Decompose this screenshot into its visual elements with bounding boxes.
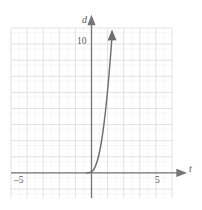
x-axis-arrowhead [177, 170, 185, 176]
x-tick-label-minus5: –5 [14, 176, 24, 186]
x-axis-label: t [189, 164, 192, 174]
y-axis-label: d [82, 15, 87, 25]
coordinate-plane [0, 0, 202, 210]
y-tick-label-10: 10 [77, 37, 87, 47]
curve-arrowhead [108, 30, 117, 41]
y-axis-arrowhead [88, 17, 94, 25]
x-tick-label-5: 5 [155, 176, 160, 186]
graph-figure: d t 10 –5 5 [0, 0, 202, 210]
